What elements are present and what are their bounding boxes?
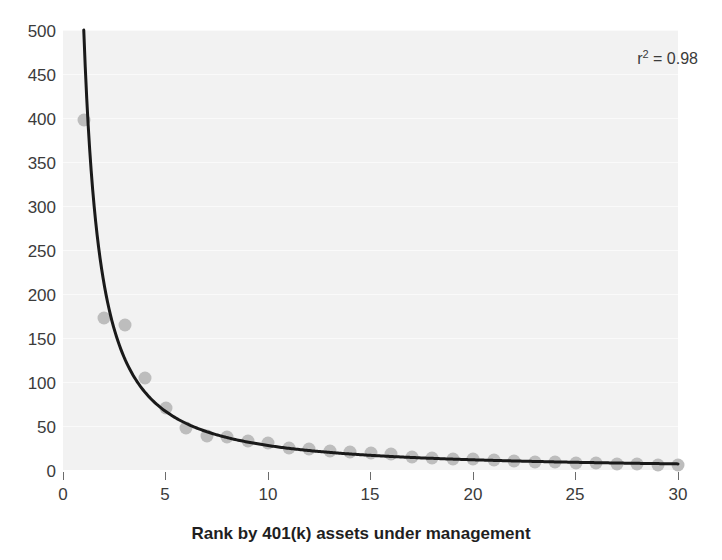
x-tick-mark (473, 472, 474, 480)
r-squared-exponent: 2 (642, 48, 648, 60)
y-tick-label: 50 (10, 419, 56, 436)
y-tick-label: 400 (10, 111, 56, 128)
data-point (446, 452, 459, 465)
data-point (200, 429, 213, 442)
data-point (323, 444, 336, 457)
data-point (508, 455, 521, 468)
y-tick-label: 500 (10, 23, 56, 40)
x-tick-label: 0 (43, 486, 83, 503)
x-tick-mark (370, 472, 371, 480)
x-tick-mark (678, 472, 679, 480)
data-point (467, 453, 480, 466)
data-point (77, 113, 90, 126)
x-tick-label: 20 (453, 486, 493, 503)
data-point (262, 436, 275, 449)
r-squared-annotation: r2 = 0.98 (637, 48, 698, 68)
x-axis-title: Rank by 401(k) assets under management (0, 524, 722, 544)
gridline (63, 74, 678, 75)
gridline (63, 30, 678, 31)
data-point (385, 448, 398, 461)
gridline (63, 206, 678, 207)
x-tick-label: 5 (145, 486, 185, 503)
gridline (63, 294, 678, 295)
data-point (344, 445, 357, 458)
gridline (63, 382, 678, 383)
data-point (98, 311, 111, 324)
data-point (487, 454, 500, 467)
data-point (303, 442, 316, 455)
data-point (221, 430, 234, 443)
data-point (282, 442, 295, 455)
x-tick-mark (63, 472, 64, 480)
y-tick-label: 450 (10, 67, 56, 84)
data-point (610, 457, 623, 470)
gridline (63, 250, 678, 251)
x-tick-label: 15 (350, 486, 390, 503)
gridline (63, 338, 678, 339)
plot-area (63, 30, 678, 470)
data-point (364, 447, 377, 460)
data-point (426, 451, 439, 464)
data-point (569, 456, 582, 469)
data-point (118, 318, 131, 331)
data-point (672, 458, 685, 471)
x-tick-mark (268, 472, 269, 480)
x-tick-label: 10 (248, 486, 288, 503)
data-point (549, 456, 562, 469)
data-point (139, 372, 152, 385)
x-tick-mark (165, 472, 166, 480)
y-tick-label: 250 (10, 243, 56, 260)
x-tick-label: 25 (555, 486, 595, 503)
data-point (651, 458, 664, 471)
data-point (590, 456, 603, 469)
y-tick-label: 100 (10, 375, 56, 392)
r-squared-value: = 0.98 (653, 50, 698, 67)
y-tick-label: 0 (10, 463, 56, 480)
gridline (63, 118, 678, 119)
x-tick-mark (575, 472, 576, 480)
gridline (63, 426, 678, 427)
y-tick-label: 200 (10, 287, 56, 304)
data-point (180, 421, 193, 434)
gridline (63, 162, 678, 163)
x-tick-label: 30 (658, 486, 698, 503)
y-tick-label: 300 (10, 199, 56, 216)
data-point (241, 434, 254, 447)
data-point (405, 450, 418, 463)
y-tick-label: 350 (10, 155, 56, 172)
data-point (631, 457, 644, 470)
data-point (528, 456, 541, 469)
y-tick-label: 150 (10, 331, 56, 348)
data-point (159, 402, 172, 415)
chart-figure: 500 450 400 350 300 250 200 150 100 50 0… (0, 0, 722, 560)
